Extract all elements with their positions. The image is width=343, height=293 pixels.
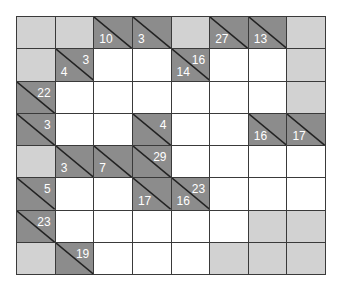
across-clue: 29 <box>153 151 166 163</box>
blocked-cell <box>287 17 325 48</box>
empty-cell[interactable] <box>287 178 325 209</box>
empty-cell[interactable] <box>249 82 287 113</box>
empty-cell[interactable] <box>56 178 94 209</box>
down-clue: 17 <box>138 195 151 207</box>
empty-cell[interactable] <box>94 178 132 209</box>
clue-cell: 27 <box>210 17 248 48</box>
empty-cell[interactable] <box>172 146 210 177</box>
empty-cell[interactable] <box>94 82 132 113</box>
empty-cell[interactable] <box>56 82 94 113</box>
empty-cell[interactable] <box>172 82 210 113</box>
across-clue: 5 <box>44 183 51 195</box>
empty-cell[interactable] <box>287 146 325 177</box>
clue-cell: 1623 <box>172 178 210 209</box>
clue-cell: 23 <box>17 211 55 242</box>
empty-cell[interactable] <box>172 114 210 145</box>
clue-cell: 17 <box>287 114 325 145</box>
clue-cell: 3 <box>133 17 171 48</box>
down-clue: 16 <box>254 130 267 142</box>
blocked-cell <box>249 243 287 274</box>
clue-cell: 3 <box>17 114 55 145</box>
empty-cell[interactable] <box>172 243 210 274</box>
empty-cell[interactable] <box>56 114 94 145</box>
down-clue: 3 <box>61 162 68 174</box>
across-clue: 3 <box>83 54 90 66</box>
blocked-cell <box>17 17 55 48</box>
blocked-cell <box>287 49 325 80</box>
clue-cell: 22 <box>17 82 55 113</box>
across-clue: 4 <box>160 119 167 131</box>
empty-cell[interactable] <box>249 178 287 209</box>
clue-cell: 13 <box>249 17 287 48</box>
clue-cell: 4 <box>133 114 171 145</box>
empty-cell[interactable] <box>133 243 171 274</box>
clue-cell: 7 <box>94 146 132 177</box>
down-clue: 3 <box>138 33 145 45</box>
empty-cell[interactable] <box>249 49 287 80</box>
empty-cell[interactable] <box>210 146 248 177</box>
kakuro-board: 103271343141622341617372951716232319 <box>16 16 326 275</box>
across-clue: 22 <box>37 87 50 99</box>
empty-cell[interactable] <box>94 211 132 242</box>
empty-cell[interactable] <box>172 211 210 242</box>
down-clue: 17 <box>292 130 305 142</box>
empty-cell[interactable] <box>210 178 248 209</box>
clue-cell: 29 <box>133 146 171 177</box>
down-clue: 16 <box>177 195 190 207</box>
blocked-cell <box>287 243 325 274</box>
down-clue: 7 <box>99 162 106 174</box>
empty-cell[interactable] <box>210 82 248 113</box>
down-clue: 13 <box>254 33 267 45</box>
blocked-cell <box>287 211 325 242</box>
clue-cell: 43 <box>56 49 94 80</box>
clue-cell: 17 <box>133 178 171 209</box>
clue-cell: 1416 <box>172 49 210 80</box>
clue-cell: 16 <box>249 114 287 145</box>
empty-cell[interactable] <box>210 211 248 242</box>
down-clue: 10 <box>99 33 112 45</box>
blocked-cell <box>287 82 325 113</box>
across-clue: 19 <box>76 248 89 260</box>
blocked-cell <box>17 146 55 177</box>
across-clue: 23 <box>192 183 205 195</box>
across-clue: 23 <box>37 216 50 228</box>
blocked-cell <box>172 17 210 48</box>
down-clue: 27 <box>215 33 228 45</box>
empty-cell[interactable] <box>210 49 248 80</box>
empty-cell[interactable] <box>94 243 132 274</box>
blocked-cell <box>56 17 94 48</box>
blocked-cell <box>210 243 248 274</box>
empty-cell[interactable] <box>56 211 94 242</box>
blocked-cell <box>249 211 287 242</box>
down-clue: 14 <box>177 66 190 78</box>
empty-cell[interactable] <box>249 146 287 177</box>
clue-cell: 19 <box>56 243 94 274</box>
clue-cell: 5 <box>17 178 55 209</box>
empty-cell[interactable] <box>210 114 248 145</box>
across-clue: 16 <box>192 54 205 66</box>
blocked-cell <box>17 243 55 274</box>
empty-cell[interactable] <box>94 114 132 145</box>
clue-cell: 3 <box>56 146 94 177</box>
empty-cell[interactable] <box>133 49 171 80</box>
clue-cell: 10 <box>94 17 132 48</box>
empty-cell[interactable] <box>94 49 132 80</box>
empty-cell[interactable] <box>133 211 171 242</box>
blocked-cell <box>17 49 55 80</box>
empty-cell[interactable] <box>133 82 171 113</box>
down-clue: 4 <box>61 66 68 78</box>
across-clue: 3 <box>44 119 51 131</box>
